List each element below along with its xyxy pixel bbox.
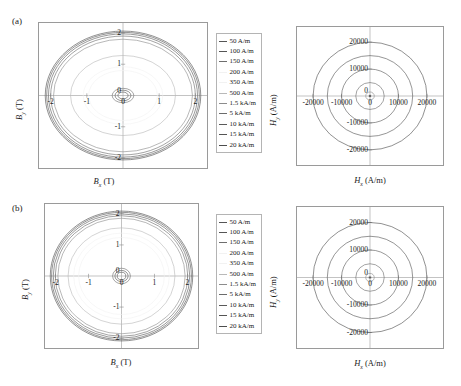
tick-label-y: 10000 (320, 65, 368, 73)
plot-a-left-curves (38, 22, 208, 169)
legend-label: 1.5 kA/m (230, 281, 256, 288)
legend-swatch-icon (219, 124, 227, 125)
tick-label-y: -20000 (320, 146, 368, 154)
tick-label-x: 0 (116, 98, 130, 106)
tick-label-y: 2 (106, 210, 120, 218)
tick-label-y: 1 (107, 60, 121, 68)
plot-a-left-xlabel: Bx (T) (94, 176, 115, 188)
tick-label-origin: 0 (107, 87, 121, 95)
legend-label: 10 kA/m (230, 302, 255, 309)
tick-label-y: 10000 (320, 246, 368, 254)
tick-label-x: -2 (49, 279, 63, 287)
plot-b-left-xlabel: Bx (T) (111, 357, 132, 369)
legend-label: 350 A/m (230, 79, 254, 86)
legend-swatch-icon (219, 113, 227, 114)
legend-item: 100 A/m (219, 227, 258, 237)
plot-a-right-curves (296, 26, 444, 166)
tick-label-x: 2 (180, 279, 194, 287)
legend-swatch-icon (219, 242, 227, 243)
plot-b-right-curves (296, 206, 444, 349)
legend-item: 50 A/m (219, 217, 258, 227)
legend-swatch-icon (219, 315, 227, 316)
plot-b-right-ylabel: Hy (A/m) (268, 276, 280, 308)
legend-label: 5 kA/m (230, 110, 251, 117)
legend-label: 500 A/m (230, 271, 254, 278)
figure-root: (a) -2-1012-2-1120 Bx (T) By (T) -20000-… (0, 0, 461, 386)
legend-item: 200 A/m (219, 248, 258, 258)
tick-label-x: -1 (82, 279, 96, 287)
legend-swatch-icon (219, 294, 227, 295)
legend-swatch-icon (219, 222, 227, 223)
legend-item: 20 kA/m (219, 140, 258, 150)
legend-label: 200 A/m (230, 250, 254, 257)
legend-panel-b: 50 A/m100 A/m150 A/m200 A/m350 A/m500 A/… (216, 214, 262, 334)
plot-b-left-ylabel: By (T) (20, 279, 32, 300)
legend-swatch-icon (219, 284, 227, 285)
tick-label-y: 20000 (320, 38, 368, 46)
legend-label: 15 kA/m (230, 131, 255, 138)
plot-a-right-ylabel: Hy (A/m) (268, 94, 280, 126)
legend-label: 15 kA/m (230, 312, 255, 319)
legend-item: 150 A/m (219, 238, 258, 248)
tick-label-x: 1 (147, 279, 161, 287)
plot-a-right-xlabel: Hx (A/m) (354, 175, 386, 187)
tick-label-y: -10000 (320, 301, 368, 309)
tick-label-x: 0 (115, 279, 129, 287)
tick-label-y: 2 (107, 29, 121, 37)
panel-a-tag: (a) (12, 16, 22, 26)
legend-label: 500 A/m (230, 90, 254, 97)
legend-item: 15 kA/m (219, 130, 258, 140)
legend-swatch-icon (219, 82, 227, 83)
legend-label: 10 kA/m (230, 121, 255, 128)
legend-swatch-icon (219, 103, 227, 104)
legend-item: 5 kA/m (219, 109, 258, 119)
legend-item: 20 kA/m (219, 321, 258, 331)
tick-label-origin: 0 (106, 267, 120, 275)
tick-label-x: 2 (188, 98, 202, 106)
legend-item: 200 A/m (219, 67, 258, 77)
tick-label-y: -2 (107, 154, 121, 162)
legend-item: 50 A/m (219, 36, 258, 46)
panel-b-tag: (b) (12, 203, 23, 213)
legend-swatch-icon (219, 72, 227, 73)
legend-item: 10 kA/m (219, 300, 258, 310)
legend-swatch-icon (219, 263, 227, 264)
tick-label-y: -10000 (320, 119, 368, 127)
legend-swatch-icon (219, 253, 227, 254)
legend-label: 100 A/m (230, 229, 254, 236)
tick-label-origin: 0 (320, 87, 368, 95)
plot-a-left-ylabel: By (T) (14, 99, 26, 120)
legend-swatch-icon (219, 326, 227, 327)
plot-b-right-xlabel: Hx (A/m) (354, 358, 386, 370)
legend-item: 500 A/m (219, 269, 258, 279)
legend-label: 50 A/m (230, 219, 251, 226)
tick-label-x: -1 (80, 98, 94, 106)
legend-label: 100 A/m (230, 48, 254, 55)
tick-label-y: -2 (106, 334, 120, 342)
legend-item: 1.5 kA/m (219, 279, 258, 289)
tick-label-y: 20000 (320, 219, 368, 227)
legend-item: 15 kA/m (219, 311, 258, 321)
tick-label-y: -1 (107, 123, 121, 131)
legend-swatch-icon (219, 61, 227, 62)
legend-swatch-icon (219, 41, 227, 42)
legend-item: 1.5 kA/m (219, 98, 258, 108)
legend-label: 5 kA/m (230, 291, 251, 298)
legend-label: 150 A/m (230, 239, 254, 246)
tick-label-x: 20000 (403, 280, 451, 288)
legend-label: 1.5 kA/m (230, 100, 256, 107)
plot-b-left-curves (44, 203, 199, 349)
tick-label-x: 1 (152, 98, 166, 106)
legend-item: 100 A/m (219, 46, 258, 56)
legend-item: 500 A/m (219, 88, 258, 98)
legend-panel-a: 50 A/m100 A/m150 A/m200 A/m350 A/m500 A/… (216, 33, 262, 153)
legend-swatch-icon (219, 274, 227, 275)
legend-swatch-icon (219, 232, 227, 233)
tick-label-y: 1 (106, 241, 120, 249)
legend-label: 50 A/m (230, 38, 251, 45)
legend-item: 350 A/m (219, 78, 258, 88)
tick-label-x: -2 (44, 98, 58, 106)
legend-label: 20 kA/m (230, 142, 255, 149)
tick-label-origin: 0 (320, 269, 368, 277)
legend-label: 350 A/m (230, 260, 254, 267)
